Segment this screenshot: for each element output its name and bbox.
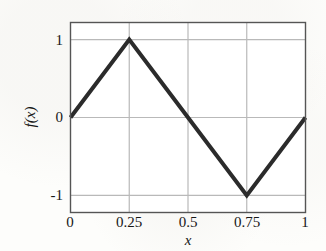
y-tick-label-1: 1 bbox=[56, 33, 64, 48]
x-tick-label-025: 0.25 bbox=[116, 215, 142, 230]
x-tick-label-1: 1 bbox=[301, 215, 309, 230]
chart-figure: 1 0 -1 0 0.25 0.5 0.75 1 x f(x) bbox=[0, 0, 326, 251]
x-tick-label-0: 0 bbox=[66, 215, 74, 230]
x-tick-label-075: 0.75 bbox=[234, 215, 260, 230]
y-tick-label-0: 0 bbox=[56, 110, 64, 125]
y-axis-title: f(x) bbox=[23, 107, 38, 128]
plot-canvas bbox=[0, 0, 326, 251]
y-tick-label-neg1: -1 bbox=[51, 188, 64, 203]
x-tick-label-05: 0.5 bbox=[179, 215, 198, 230]
x-axis-title: x bbox=[185, 233, 192, 248]
